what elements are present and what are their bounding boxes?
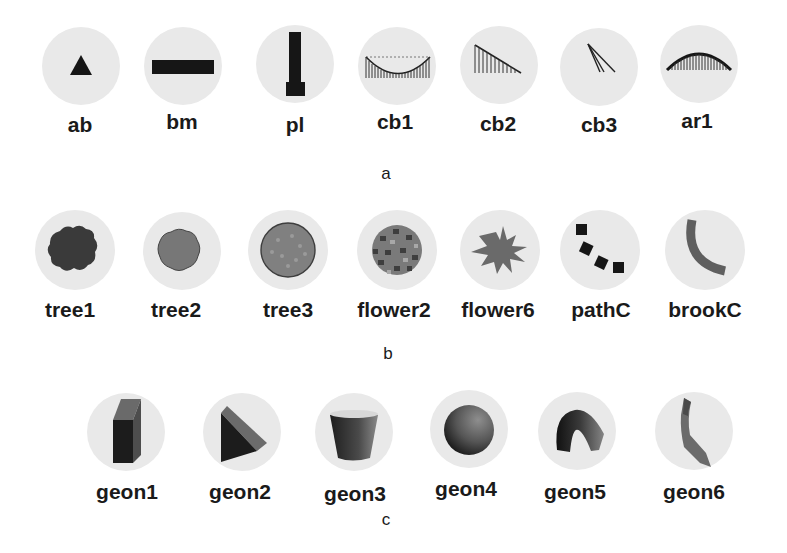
icon-circle-bm <box>144 27 222 105</box>
icon-circle-geon3 <box>315 393 393 471</box>
icon-circle-geon1 <box>87 393 165 471</box>
item-label: flower6 <box>438 298 558 322</box>
item-label: tree3 <box>228 298 348 322</box>
item-label: geon2 <box>180 480 300 504</box>
item-label: geon1 <box>67 480 187 504</box>
icon-circle-ar1 <box>660 25 738 103</box>
icon-circle-tree3 <box>248 210 328 290</box>
icon-circle-geon6 <box>655 392 733 470</box>
item-label: flower2 <box>334 298 454 322</box>
panel-letter-c: c <box>376 510 396 530</box>
icon-circle-flower6 <box>460 210 540 290</box>
panel-letter-a: a <box>376 164 396 184</box>
icon-circle-geon5 <box>538 392 616 470</box>
icon-circle-tree1 <box>35 210 115 290</box>
panel-letter-b: b <box>378 344 398 364</box>
item-label: geon6 <box>634 480 754 504</box>
item-label: geon3 <box>295 482 415 506</box>
icon-circle-cb1 <box>358 27 436 105</box>
icon-circle-geon2 <box>203 393 281 471</box>
icon-circle-tree2 <box>143 212 221 290</box>
icon-circle-cb3 <box>560 28 638 106</box>
item-label: geon5 <box>515 480 635 504</box>
icon-circle-brookC <box>665 210 745 290</box>
item-label: geon4 <box>406 477 526 501</box>
item-label: bm <box>122 110 242 134</box>
item-label: tree1 <box>10 298 130 322</box>
icon-circle-pathC <box>560 210 640 290</box>
icon-circle-cb2 <box>460 26 538 104</box>
item-label: ar1 <box>637 109 757 133</box>
icon-circle-pl <box>256 25 334 103</box>
item-label: tree2 <box>116 298 236 322</box>
icon-circle-flower2 <box>357 210 437 290</box>
item-label: cb1 <box>335 110 455 134</box>
icon-circle-ab <box>42 27 120 105</box>
icon-circle-geon4 <box>430 390 508 468</box>
item-label: pathC <box>541 298 661 322</box>
item-label: brookC <box>645 298 765 322</box>
